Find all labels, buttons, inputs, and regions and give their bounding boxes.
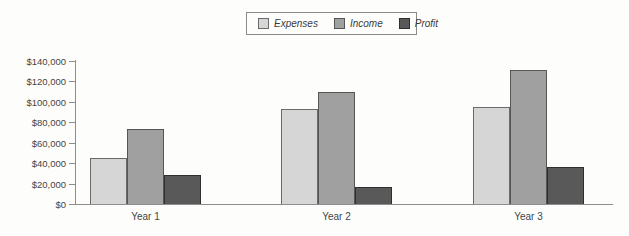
legend-item-profit: Profit (399, 18, 438, 29)
chart-legend: Expenses Income Profit (246, 12, 417, 35)
y-axis-tick (69, 163, 75, 164)
y-axis-tick (69, 122, 75, 123)
y-axis-tick-label: $140,000 (0, 56, 66, 67)
y-axis-tick (69, 204, 75, 205)
bar-profit-year-2 (355, 187, 392, 204)
y-axis-tick-label: $80,000 (0, 117, 66, 128)
expenses-swatch-icon (258, 18, 269, 29)
y-axis-tick-label: $0 (0, 199, 66, 210)
y-axis-tick (69, 143, 75, 144)
bar-chart-figure: Expenses Income Profit $0$20,000$40,000$… (0, 0, 629, 236)
y-axis-tick (69, 184, 75, 185)
y-axis-tick-label: $120,000 (0, 76, 66, 87)
legend-label-expenses: Expenses (274, 18, 318, 29)
legend-item-income: Income (334, 18, 383, 29)
y-axis-tick-label: $100,000 (0, 97, 66, 108)
y-axis-tick (69, 102, 75, 103)
y-axis-tick-label: $60,000 (0, 138, 66, 149)
y-axis-tick (69, 61, 75, 62)
x-axis-label-year-1: Year 1 (111, 211, 181, 222)
legend-label-profit: Profit (415, 18, 438, 29)
bar-expenses-year-2 (281, 109, 318, 204)
legend-item-expenses: Expenses (258, 18, 318, 29)
y-axis-tick (69, 81, 75, 82)
legend-label-income: Income (350, 18, 383, 29)
bar-income-year-3 (510, 70, 547, 204)
x-axis-line (75, 204, 613, 205)
bar-expenses-year-1 (90, 158, 127, 204)
y-axis-tick-label: $40,000 (0, 158, 66, 169)
bar-expenses-year-3 (473, 107, 510, 204)
x-axis-label-year-2: Year 2 (302, 211, 372, 222)
bar-income-year-1 (127, 129, 164, 204)
bar-income-year-2 (318, 92, 355, 204)
y-axis-tick-label: $20,000 (0, 179, 66, 190)
x-axis-label-year-3: Year 3 (494, 211, 564, 222)
income-swatch-icon (334, 18, 345, 29)
bar-profit-year-1 (164, 175, 201, 204)
bar-profit-year-3 (547, 167, 584, 204)
profit-swatch-icon (399, 18, 410, 29)
y-axis-line (75, 60, 76, 204)
